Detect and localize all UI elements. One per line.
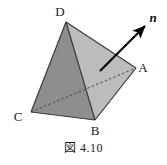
vertex-label-C: C — [14, 109, 23, 124]
vertex-label-A: A — [138, 60, 148, 75]
normal-vector-label: n — [149, 10, 156, 25]
figure-4-10: D A B C n 図 4.10 — [0, 0, 167, 165]
vertex-label-D: D — [55, 4, 64, 19]
vertex-label-B: B — [91, 123, 100, 138]
figure-caption: 図 4.10 — [0, 138, 167, 156]
